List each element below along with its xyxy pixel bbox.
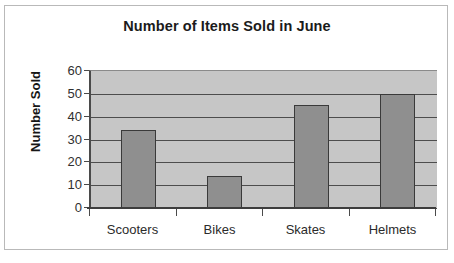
y-tick-label: 20 [52, 155, 82, 168]
bar-scooters [121, 130, 156, 208]
x-axis-label-scooters: Scooters [89, 222, 176, 237]
x-tick-mark [176, 209, 177, 216]
x-tick-mark [435, 209, 436, 216]
x-tick-mark [89, 209, 90, 216]
x-axis-label-bikes: Bikes [176, 222, 263, 237]
y-tick-label: 40 [52, 110, 82, 123]
x-axis-label-helmets: Helmets [349, 222, 436, 237]
y-tick-label: 0 [52, 201, 82, 214]
y-axis-title: Number Sold [28, 52, 43, 172]
y-tick-label: 30 [52, 133, 82, 146]
y-tick-label: 50 [52, 87, 82, 100]
x-tick-mark [262, 209, 263, 216]
x-tick-mark [349, 209, 350, 216]
bar-bikes [207, 176, 242, 208]
chart-page: Number of Items Sold in June Number Sold… [0, 0, 454, 263]
y-axis-tick-labels: 6050403020100 [52, 63, 82, 213]
chart-title: Number of Items Sold in June [0, 18, 454, 34]
y-tick-label: 10 [52, 178, 82, 191]
x-axis-label-skates: Skates [262, 222, 349, 237]
plot-area [89, 70, 437, 208]
bar-skates [294, 105, 329, 208]
y-tick-label: 60 [52, 64, 82, 77]
plot-inner [91, 71, 437, 208]
bar-helmets [380, 94, 415, 208]
